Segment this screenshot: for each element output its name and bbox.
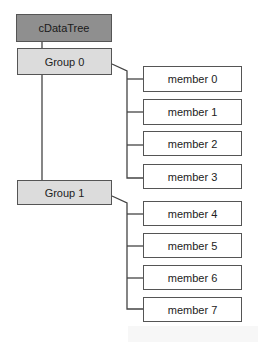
member-label: member 6 [168,272,218,284]
member-label: member 0 [168,73,218,85]
group-label: Group 1 [45,187,85,199]
member-node-7: member 7 [143,297,242,322]
member-label: member 3 [168,171,218,183]
member-label: member 1 [168,106,218,118]
member-label: member 5 [168,240,218,252]
member-node-2: member 2 [143,131,242,156]
member-label: member 2 [168,138,218,150]
member-node-3: member 3 [143,164,242,189]
root-label: cDataTree [39,22,90,34]
root-node: cDataTree [16,14,112,42]
group-label: Group 0 [45,56,85,68]
member-node-0: member 0 [143,66,242,92]
member-node-5: member 5 [143,233,242,258]
member-label: member 4 [168,208,218,220]
member-label: member 7 [168,304,218,316]
group-node-0: Group 0 [17,48,112,75]
group-node-1: Group 1 [17,180,112,205]
member-node-6: member 6 [143,265,242,290]
member-node-1: member 1 [143,99,242,125]
member-node-4: member 4 [143,201,242,226]
